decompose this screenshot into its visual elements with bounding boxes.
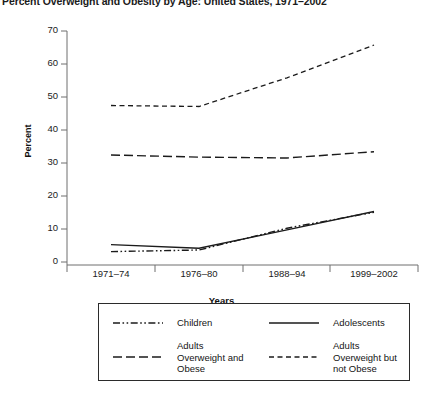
x-tick-1999-2002: 1999–2002 [329,268,419,279]
series-line-adults-overweight-and-obese [111,152,374,158]
y-tick-30: 30 [28,156,58,167]
y-tick-0: 0 [28,255,58,266]
plot-area: Percent 70 60 50 40 30 20 10 0 [0,18,443,288]
y-tick-70: 70 [28,24,58,35]
legend-label-line-3: not Obese [333,363,397,375]
chart-page: Percent Overweight and Obesity by Age: U… [0,0,443,394]
legend-label-adolescents: Adolescents [333,317,385,329]
chart-svg [0,18,443,288]
legend-label-children: Children [177,317,212,329]
y-tick-60: 60 [28,57,58,68]
y-tick-10: 10 [28,222,58,233]
chart-title: Percent Overweight and Obesity by Age: U… [2,0,443,7]
legend-label-adults-overweight-and-obese: Adults Overweight and Obese [177,340,244,375]
x-tick-1976-80: 1976–80 [154,268,244,279]
y-tick-40: 40 [28,123,58,134]
series-line-adolescents [111,212,374,249]
legend-swatch-children [111,318,165,328]
chart-legend: Children Adolescents Adults Overweight a… [98,303,410,381]
y-tick-20: 20 [28,189,58,200]
y-tick-50: 50 [28,90,58,101]
x-tick-1988-94: 1988–94 [242,268,332,279]
legend-swatch-adolescents [267,318,321,328]
legend-label-line-1: Adults [177,340,244,352]
x-tick-1971-74: 1971–74 [66,268,156,279]
series-line-adults-overweight-not-obese [111,45,374,107]
legend-label-adults-overweight-not-obese: Adults Overweight but not Obese [333,340,397,375]
legend-label-line-1: Adults [333,340,397,352]
legend-swatch-adults-overweight-and-obese [111,352,165,362]
legend-label-line-3: Obese [177,363,244,375]
legend-swatch-adults-overweight-not-obese [267,352,321,362]
legend-label-line-2: Overweight and [177,352,244,364]
legend-label-line-2: Overweight but [333,352,397,364]
